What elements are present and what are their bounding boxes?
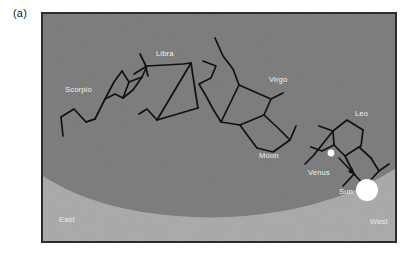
object-label-sun: Sun (339, 187, 353, 196)
constellation-label-scorpio: Scorpio (65, 85, 92, 94)
object-label-moon: Moon (259, 151, 279, 160)
constellation-label-leo: Leo (355, 109, 368, 118)
object-label-venus: Venus (308, 168, 330, 177)
sun-symbol (356, 179, 378, 201)
figure-root: (a) (0, 0, 411, 256)
sky-chart-svg: Scorpio Libra Virgo Leo Moon Venus Sun E… (43, 14, 395, 241)
panel-label: (a) (13, 7, 27, 19)
constellation-label-libra: Libra (156, 49, 174, 58)
constellation-label-virgo: Virgo (269, 75, 287, 84)
horizon-label-west: West (370, 217, 389, 226)
sky-chart-panel: Scorpio Libra Virgo Leo Moon Venus Sun E… (41, 12, 397, 243)
horizon-label-east: East (59, 215, 76, 224)
venus-symbol (328, 150, 335, 157)
